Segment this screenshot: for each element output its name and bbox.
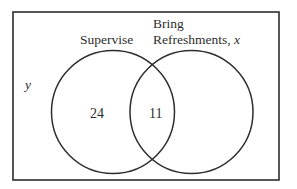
universe-variable-label: y <box>25 77 31 92</box>
refreshments-variable: x <box>234 32 240 47</box>
intersection-count: 11 <box>149 106 162 121</box>
refreshments-label-text: Refreshments, <box>153 32 234 47</box>
supervise-only-count: 24 <box>90 106 104 121</box>
supervise-label: Supervise <box>80 32 133 47</box>
refreshments-label-line2: Refreshments, x <box>153 32 240 47</box>
refreshments-label-line1: Bring <box>153 16 184 31</box>
venn-diagram <box>0 0 297 189</box>
